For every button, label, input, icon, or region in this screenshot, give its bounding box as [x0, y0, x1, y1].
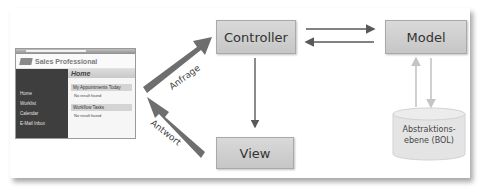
bol-label-line1: Abstraktions-	[393, 124, 465, 135]
view-label: View	[240, 146, 271, 161]
view-box: View	[216, 137, 294, 169]
controller-box: Controller	[216, 20, 296, 54]
model-box: Model	[385, 20, 467, 54]
bol-label: Abstraktions- ebene (BOL)	[393, 124, 465, 146]
bol-label-line2: ebene (BOL)	[393, 135, 465, 146]
model-label: Model	[406, 30, 445, 45]
controller-label: Controller	[224, 30, 288, 45]
